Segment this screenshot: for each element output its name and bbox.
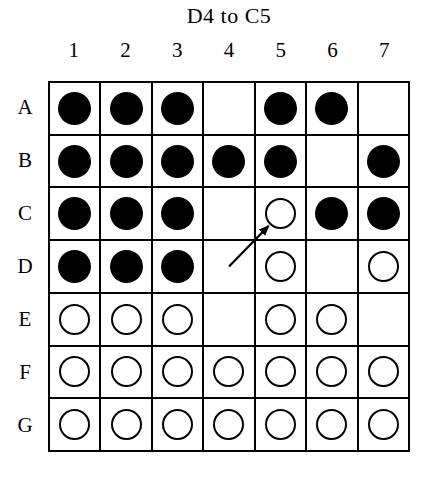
filled-disc [367,145,400,178]
row-label-D: D [8,240,42,293]
filled-disc [110,250,143,283]
filled-disc [212,145,245,178]
cell-E7 [359,294,408,345]
filled-disc [110,197,143,230]
cell-D3 [153,241,202,292]
cell-A4 [204,83,253,134]
cell-D2 [101,241,150,292]
filled-disc [161,197,194,230]
cell-A3 [153,83,202,134]
cell-A5 [256,83,305,134]
cell-A2 [101,83,150,134]
open-disc [368,409,399,440]
cell-F6 [307,347,356,398]
cell-B6 [307,136,356,187]
cell-B5 [256,136,305,187]
row-label-E: E [8,293,42,346]
filled-disc [58,145,91,178]
open-disc [265,198,296,229]
row-label-B: B [8,134,42,187]
cell-F1 [50,347,99,398]
cell-D6 [307,241,356,292]
cell-D1 [50,241,99,292]
cell-C5 [256,188,305,239]
open-disc [59,304,90,335]
open-disc [368,356,399,387]
column-label-1: 1 [48,36,100,64]
open-disc [162,304,193,335]
column-label-4: 4 [203,36,255,64]
open-disc [111,356,142,387]
cell-E3 [153,294,202,345]
filled-disc [58,197,91,230]
board-grid [48,81,410,452]
filled-disc [110,92,143,125]
cell-G2 [101,399,150,450]
cell-B7 [359,136,408,187]
column-label-6: 6 [307,36,359,64]
filled-disc [264,92,297,125]
open-disc [265,356,296,387]
filled-disc [161,145,194,178]
open-disc [162,356,193,387]
cell-G3 [153,399,202,450]
open-disc [368,251,399,282]
row-label-F: F [8,346,42,399]
filled-disc [110,145,143,178]
open-disc [265,409,296,440]
cell-B3 [153,136,202,187]
column-label-7: 7 [358,36,410,64]
cell-F7 [359,347,408,398]
cell-D5 [256,241,305,292]
filled-disc [161,250,194,283]
filled-disc [315,197,348,230]
row-label-C: C [8,187,42,240]
cell-G7 [359,399,408,450]
open-disc [213,409,244,440]
cell-F4 [204,347,253,398]
open-disc [265,304,296,335]
row-label-G: G [8,399,42,452]
cell-F3 [153,347,202,398]
open-disc [59,356,90,387]
cell-A7 [359,83,408,134]
filled-disc [367,197,400,230]
filled-disc [315,92,348,125]
open-disc [316,409,347,440]
cell-F5 [256,347,305,398]
open-disc [59,409,90,440]
open-disc [111,304,142,335]
row-label-A: A [8,81,42,134]
open-disc [111,409,142,440]
cell-B4 [204,136,253,187]
cell-G4 [204,399,253,450]
cell-C4 [204,188,253,239]
filled-disc [58,92,91,125]
column-label-5: 5 [255,36,307,64]
cell-B1 [50,136,99,187]
cell-C3 [153,188,202,239]
cell-E2 [101,294,150,345]
cell-G1 [50,399,99,450]
open-disc [316,356,347,387]
open-disc [316,304,347,335]
cell-G5 [256,399,305,450]
cell-A1 [50,83,99,134]
open-disc [213,356,244,387]
column-label-2: 2 [100,36,152,64]
diagram-page: D4 to C5 1234567 ABCDEFG [0,0,422,479]
diagram-title: D4 to C5 [48,3,410,29]
cell-C1 [50,188,99,239]
cell-C6 [307,188,356,239]
cell-F2 [101,347,150,398]
column-labels: 1234567 [48,36,410,64]
cell-D7 [359,241,408,292]
filled-disc [264,145,297,178]
cell-B2 [101,136,150,187]
filled-disc [58,250,91,283]
cell-E4 [204,294,253,345]
cell-E6 [307,294,356,345]
row-labels: ABCDEFG [8,81,42,452]
cell-G6 [307,399,356,450]
cell-E5 [256,294,305,345]
